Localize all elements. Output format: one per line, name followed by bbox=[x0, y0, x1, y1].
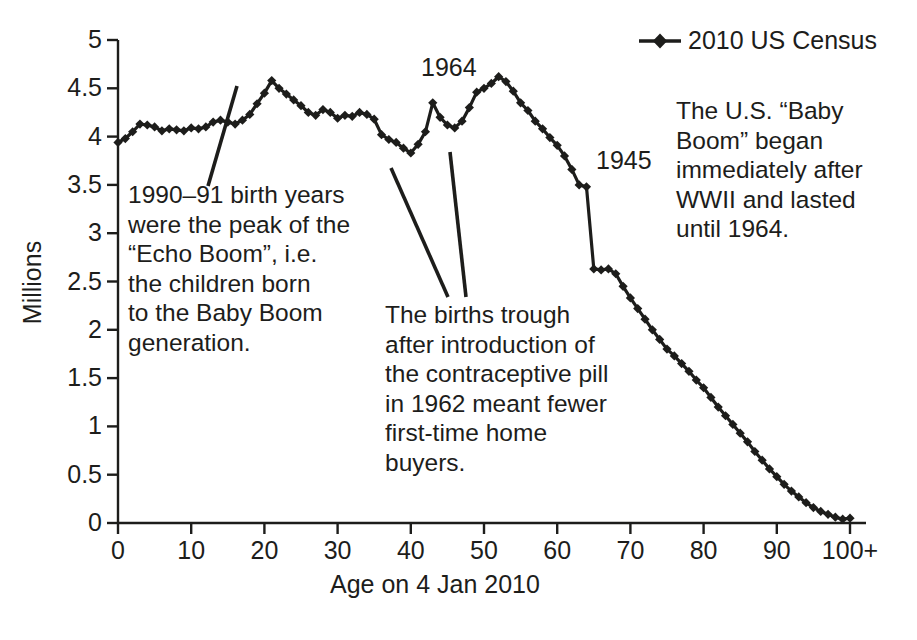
x-axis-tick-label: 60 bbox=[543, 538, 571, 563]
x-axis-tick-label: 10 bbox=[177, 538, 205, 563]
y-axis-tick-label: 1.5 bbox=[16, 365, 102, 390]
y-axis-tick-label: 0.5 bbox=[16, 462, 102, 487]
x-axis-tick-label: 70 bbox=[616, 538, 644, 563]
data-point-marker bbox=[194, 124, 203, 133]
x-axis-tick-label: 80 bbox=[690, 538, 718, 563]
data-point-marker bbox=[589, 264, 598, 273]
y-axis-tick-label: 3.5 bbox=[16, 172, 102, 197]
x-axis-tick-label: 0 bbox=[111, 538, 125, 563]
point-label-1945: 1945 bbox=[596, 148, 652, 173]
x-axis-title: Age on 4 Jan 2010 bbox=[330, 570, 540, 599]
point-label-1964: 1964 bbox=[421, 55, 477, 80]
annotation-baby-boom: The U.S. “Baby Boom” began immediately a… bbox=[676, 96, 896, 244]
x-axis-tick-label: 20 bbox=[250, 538, 278, 563]
y-axis-tick-label: 4 bbox=[16, 124, 102, 149]
y-axis-tick-label: 0 bbox=[16, 510, 102, 535]
data-point-marker bbox=[216, 116, 225, 125]
y-axis-ticks bbox=[107, 40, 118, 523]
data-point-marker bbox=[582, 182, 591, 191]
data-point-marker bbox=[597, 265, 606, 274]
leader-line-echo-boom bbox=[208, 86, 237, 186]
legend-marker-icon bbox=[638, 30, 682, 52]
x-axis-tick-label: 40 bbox=[397, 538, 425, 563]
leader-line-pill-b bbox=[450, 152, 466, 297]
leader-line-pill-a bbox=[391, 168, 448, 297]
legend-label: 2010 US Census bbox=[688, 28, 877, 53]
annotation-pill-trough: The births trough after introduction of … bbox=[385, 300, 635, 477]
y-axis-title: Millions bbox=[18, 203, 47, 363]
x-axis-tick-label: 30 bbox=[324, 538, 352, 563]
x-axis-tick-label: 90 bbox=[763, 538, 791, 563]
data-point-marker bbox=[172, 125, 181, 134]
y-axis-tick-label: 5 bbox=[16, 27, 102, 52]
x-axis-tick-label: 100+ bbox=[822, 538, 878, 563]
data-point-marker bbox=[845, 514, 854, 523]
data-point-marker bbox=[143, 120, 152, 129]
chart-figure: 00.511.522.533.544.55 010203040506070809… bbox=[0, 0, 917, 640]
y-axis-tick-label: 4.5 bbox=[16, 75, 102, 100]
data-point-marker bbox=[165, 124, 174, 133]
x-axis-tick-label: 50 bbox=[470, 538, 498, 563]
y-axis-tick-label: 1 bbox=[16, 413, 102, 438]
legend: 2010 US Census bbox=[638, 28, 877, 53]
x-axis-ticks bbox=[118, 523, 850, 534]
annotation-echo-boom: 1990–91 birth years were the peak of the… bbox=[128, 180, 383, 357]
